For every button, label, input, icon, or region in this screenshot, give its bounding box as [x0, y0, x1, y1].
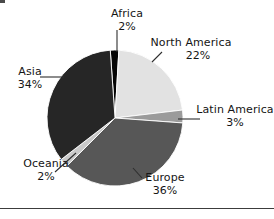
slice-label-north-america-value: 22%	[144, 50, 238, 63]
slice-label-africa-value: 2%	[94, 21, 160, 34]
bottom-divider	[0, 208, 274, 209]
slice-label-asia-value: 34%	[6, 79, 54, 92]
slice-label-latin-america-value: 3%	[196, 117, 274, 130]
slice-label-europe: Europe 36%	[134, 172, 196, 198]
slice-label-latin-america: Latin America 3%	[196, 104, 274, 130]
slice-label-europe-value: 36%	[134, 185, 196, 198]
slice-label-north-america: North America 22%	[144, 37, 238, 63]
slice-label-africa: Africa 2%	[94, 8, 160, 34]
pie-chart-figure: Africa 2% North America 22% Latin Americ…	[0, 0, 274, 219]
slice-label-asia: Asia 34%	[6, 66, 54, 92]
slice-label-oceania: Oceania 2%	[14, 158, 78, 184]
corner-artifact	[0, 0, 5, 3]
slice-label-oceania-value: 2%	[14, 171, 78, 184]
